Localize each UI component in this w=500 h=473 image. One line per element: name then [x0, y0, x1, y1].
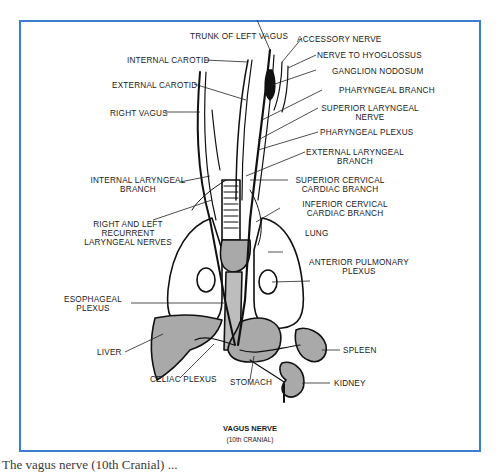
label-line: RECURRENT	[78, 229, 178, 238]
ganglion-nodosum	[265, 70, 275, 100]
label-ganglion-nodosum: GANGLION NODOSUM	[332, 67, 423, 76]
label-anterior-pulmonary-plexus: ANTERIOR PULMONARY PLEXUS	[309, 258, 409, 276]
label-line: CARDIAC BRANCH	[295, 209, 395, 218]
label-line: BRANCH	[305, 157, 405, 166]
label-liver: LIVER	[97, 348, 122, 357]
label-accessory-nerve: ACCESSORY NERVE	[297, 35, 381, 44]
label-inferior-cervical-cardiac-branch: INFERIOR CERVICAL CARDIAC BRANCH	[295, 200, 395, 218]
label-line: LARYNGEAL NERVES	[78, 238, 178, 247]
label-line: CARDIAC BRANCH	[290, 185, 390, 194]
label-internal-laryngeal-branch: INTERNAL LARYNGEAL BRANCH	[88, 176, 188, 194]
label-trunk-of-left-vagus: TRUNK OF LEFT VAGUS	[190, 32, 288, 41]
label-spleen: SPLEEN	[343, 346, 377, 355]
label-line: EXTERNAL LARYNGEAL	[305, 148, 405, 157]
label-superior-laryngeal-nerve: SUPERIOR LARYNGEAL NERVE	[320, 104, 420, 122]
label-line: SUPERIOR LARYNGEAL	[320, 104, 420, 113]
label-line: SUPERIOR CERVICAL	[290, 176, 390, 185]
label-external-carotid: EXTERNAL CAROTID	[112, 81, 197, 90]
label-line: PLEXUS	[309, 267, 409, 276]
body-text-fragment: The vagus nerve (10th Cranial) ...	[2, 457, 177, 473]
label-line: ANTERIOR PULMONARY	[309, 258, 409, 267]
label-superior-cervical-cardiac-branch: SUPERIOR CERVICAL CARDIAC BRANCH	[290, 176, 390, 194]
label-stomach: STOMACH	[230, 378, 272, 387]
label-line: INFERIOR CERVICAL	[295, 200, 395, 209]
label-right-vagus: RIGHT VAGUS	[110, 109, 168, 118]
label-line: BRANCH	[88, 185, 188, 194]
label-nerve-to-hyoglossus: NERVE TO HYOGLOSSUS	[317, 51, 422, 60]
liver	[151, 315, 222, 380]
label-esophageal-plexus: ESOPHAGEAL PLEXUS	[53, 295, 133, 313]
figure-subtitle: (10th CRANIAL)	[200, 436, 300, 443]
label-line: INTERNAL LARYNGEAL	[88, 176, 188, 185]
label-line: ESOPHAGEAL	[53, 295, 133, 304]
figure-title: VAGUS NERVE	[200, 424, 300, 433]
label-pharyngeal-plexus: PHARYNGEAL PLEXUS	[320, 128, 414, 137]
label-line: PLEXUS	[53, 304, 133, 313]
label-external-laryngeal-branch: EXTERNAL LARYNGEAL BRANCH	[305, 148, 405, 166]
label-recurrent-laryngeal-nerves: RIGHT AND LEFT RECURRENT LARYNGEAL NERVE…	[78, 220, 178, 247]
label-line: NERVE	[320, 113, 420, 122]
label-celiac-plexus: CELIAC PLEXUS	[150, 375, 217, 384]
label-line: RIGHT AND LEFT	[78, 220, 178, 229]
label-lung: LUNG	[305, 229, 329, 238]
label-pharyngeal-branch: PHARYNGEAL BRANCH	[339, 86, 435, 95]
aortic-arch	[220, 240, 250, 272]
label-internal-carotid: INTERNAL CAROTID	[127, 56, 210, 65]
label-kidney: KIDNEY	[334, 379, 366, 388]
